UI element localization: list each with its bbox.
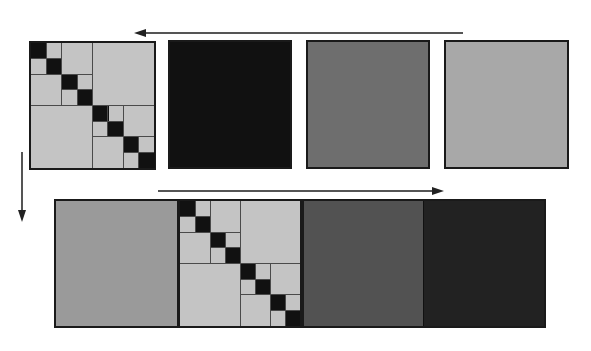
diagonal-cell: [108, 121, 124, 137]
block-divider: [240, 279, 270, 280]
block-divider: [31, 74, 93, 75]
diagonal-cell: [225, 248, 240, 264]
left-arrow-head-icon: [134, 29, 146, 37]
diagonal-cell: [255, 279, 270, 295]
bottom-arrow-shaft: [158, 190, 434, 192]
diagonal-cell: [46, 59, 62, 75]
down-arrow-shaft: [21, 152, 23, 212]
block-divider: [180, 232, 240, 233]
bottom-strip: [54, 199, 546, 328]
diagonal-cell: [210, 232, 225, 248]
bottom-near-black-segment: [423, 201, 544, 326]
diagonal-cell: [195, 217, 210, 233]
diagonal-cell: [123, 137, 139, 153]
block-divider: [180, 263, 300, 264]
bottom-block-diagonal-matrix: [178, 199, 302, 328]
top-block-diagonal-matrix: [29, 41, 156, 170]
diagonal-cell: [285, 310, 300, 326]
down-arrow-head-icon: [18, 210, 26, 222]
diagonal-cell: [31, 43, 47, 59]
block-divider: [270, 310, 300, 311]
top-arrow-shaft: [140, 32, 463, 34]
block-divider: [93, 121, 124, 122]
block-divider: [93, 136, 155, 137]
top-mid-gray-square: [306, 40, 430, 169]
top-light-gray-square: [444, 40, 569, 169]
diagonal-cell: [93, 106, 109, 122]
block-divider: [180, 216, 210, 217]
diagonal-cell: [62, 74, 78, 90]
diagonal-cell: [77, 90, 93, 106]
bottom-gray-segment: [56, 201, 179, 326]
block-divider: [31, 58, 62, 59]
block-divider: [210, 247, 240, 248]
right-arrow-head-icon: [432, 187, 444, 195]
block-divider: [62, 89, 93, 90]
top-black-square: [168, 40, 292, 169]
block-divider: [31, 105, 154, 106]
diagonal-cell: [270, 295, 285, 311]
bottom-block-matrix-segment: [179, 201, 302, 326]
diagonal-cell: [240, 264, 255, 280]
block-divider: [240, 294, 300, 295]
bottom-dark-gray-segment: [302, 201, 423, 326]
block-divider: [123, 152, 154, 153]
diagonal-cell: [180, 201, 195, 217]
diagonal-cell: [139, 152, 155, 168]
